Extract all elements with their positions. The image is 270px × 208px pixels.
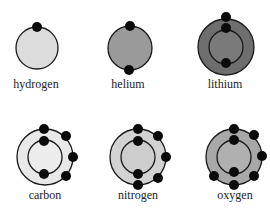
atom-label: oxygen bbox=[217, 188, 252, 202]
atom-lithium: lithium bbox=[198, 12, 254, 91]
electron-dot bbox=[221, 58, 231, 68]
electron-dot bbox=[125, 21, 135, 31]
atom-nitrogen: nitrogen bbox=[110, 124, 171, 202]
electron-dot bbox=[32, 22, 42, 32]
electron-dot bbox=[61, 131, 71, 141]
outer-shell bbox=[16, 27, 58, 69]
electron-dot bbox=[39, 136, 49, 146]
electron-dot bbox=[39, 124, 49, 134]
atom-label: carbon bbox=[29, 188, 62, 202]
electron-dot bbox=[229, 167, 239, 177]
atom-label: hydrogen bbox=[13, 77, 58, 91]
electron-dot bbox=[209, 171, 219, 181]
electron-dot bbox=[249, 130, 259, 140]
electron-dot bbox=[229, 135, 239, 145]
atom-carbon: carbon bbox=[17, 124, 78, 202]
electron-dot bbox=[257, 151, 267, 161]
electron-dot bbox=[61, 171, 71, 181]
electron-dot bbox=[153, 131, 163, 141]
outer-shell bbox=[108, 26, 152, 70]
electron-dot bbox=[229, 124, 239, 134]
atom-oxygen: oxygen bbox=[206, 124, 267, 202]
electron-dot bbox=[161, 152, 171, 162]
electron-dot bbox=[153, 173, 163, 183]
electron-dot bbox=[68, 152, 78, 162]
atom-label: nitrogen bbox=[118, 188, 158, 202]
atom-label: helium bbox=[111, 77, 145, 91]
electron-dot bbox=[133, 136, 143, 146]
electron-dot bbox=[133, 169, 143, 179]
atom-label: lithium bbox=[208, 77, 243, 91]
electron-dot bbox=[249, 171, 259, 181]
atom-hydrogen: hydrogen bbox=[13, 22, 58, 91]
atomic-structure-diagram: hydrogenheliumlithiumcarbonnitrogenoxyge… bbox=[0, 0, 270, 208]
electron-dot bbox=[221, 23, 231, 33]
atom-helium: helium bbox=[108, 21, 152, 91]
electron-dot bbox=[221, 12, 231, 22]
electron-dot bbox=[39, 169, 49, 179]
electron-dot bbox=[124, 65, 134, 75]
electron-dot bbox=[133, 124, 143, 134]
